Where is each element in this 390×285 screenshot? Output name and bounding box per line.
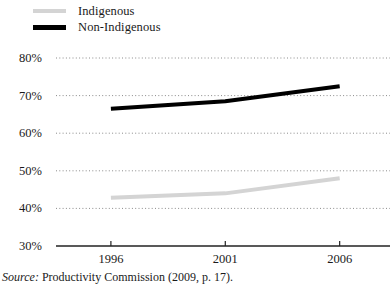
chart-plot-area: 30%40%50%60%70%80%199620012006 <box>0 40 390 260</box>
series-line-non-indigenous <box>111 86 340 109</box>
chart-legend: Indigenous Non-Indigenous <box>0 0 390 40</box>
source-note-text: Productivity Commission (2009, p. 17). <box>42 270 233 284</box>
x-axis-tick-label: 1996 <box>81 253 141 266</box>
source-note: Source: Productivity Commission (2009, p… <box>2 271 233 285</box>
y-axis-tick-label: 60% <box>2 127 42 140</box>
legend-line-swatch-non-indigenous <box>33 25 66 30</box>
series-line-indigenous <box>111 178 340 198</box>
y-axis-tick-label: 40% <box>2 202 42 215</box>
y-axis-tick-label: 80% <box>2 52 42 65</box>
legend-label-indigenous: Indigenous <box>78 5 135 18</box>
x-axis-tick-label: 2006 <box>310 253 370 266</box>
y-axis-tick-label: 30% <box>2 240 42 253</box>
legend-item-non-indigenous: Non-Indigenous <box>33 19 161 35</box>
legend-item-indigenous: Indigenous <box>33 3 135 19</box>
y-axis-tick-label: 70% <box>2 90 42 103</box>
legend-label-non-indigenous: Non-Indigenous <box>78 21 161 34</box>
legend-line-swatch-indigenous <box>33 9 66 13</box>
x-axis-tick-label: 2001 <box>195 253 255 266</box>
chart-svg-canvas <box>0 40 390 260</box>
y-axis-tick-label: 50% <box>2 165 42 178</box>
source-note-prefix: Source: <box>2 270 39 284</box>
